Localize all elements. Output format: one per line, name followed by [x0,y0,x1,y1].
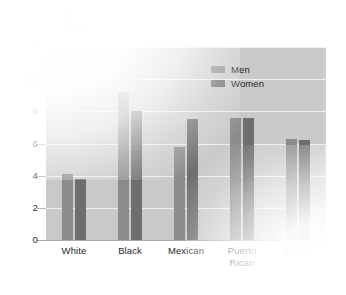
bar [62,174,73,240]
y-tick-label-8: 8 [16,105,38,116]
legend-swatch-women [211,80,225,87]
y-tick-mark-6 [37,144,46,145]
legend-item: Men [211,64,264,75]
bar [299,140,310,240]
bar [118,92,129,240]
y-tick-label-2: 2 [16,202,38,213]
y-tick-label-10: 10 [16,73,38,84]
y-tick-label-6: 6 [16,138,38,149]
bar [286,139,297,240]
unemployment-bar-chart: Percent unemployed 121086420 WhiteBlackM… [0,0,346,295]
y-tick-mark-4 [37,176,46,177]
bar-group [270,47,326,240]
legend-swatch-men [211,66,225,73]
y-tick-mark-12 [37,47,46,48]
y-axis-title: Percent unemployed [39,6,92,29]
x-axis-label-line: Cuban [255,245,341,257]
bar-group [102,47,158,240]
plot-area [46,47,326,240]
y-tick-label-0: 0 [16,234,38,245]
bar-group [46,47,102,240]
legend: MenWomen [211,64,264,89]
y-axis-title-line-1: Percent [39,6,92,18]
bar [174,147,185,240]
bar [243,118,254,240]
y-tick-label-4: 4 [16,170,38,181]
y-tick-mark-8 [37,111,46,112]
y-tick-mark-10 [37,79,46,80]
y-axis-title-line-2: unemployed [39,18,92,30]
bar-group [158,47,214,240]
y-tick-mark-2 [37,208,46,209]
legend-label: Women [231,78,264,89]
bar [230,118,241,240]
bar [131,111,142,240]
bar [187,119,198,240]
x-axis-label-line: Rican [199,257,285,269]
x-axis-label: Cuban [255,245,341,257]
legend-item: Women [211,78,264,89]
legend-label: Men [231,64,250,75]
y-tick-label-12: 12 [16,41,38,52]
x-axis-baseline [37,240,326,241]
bar [75,179,86,240]
